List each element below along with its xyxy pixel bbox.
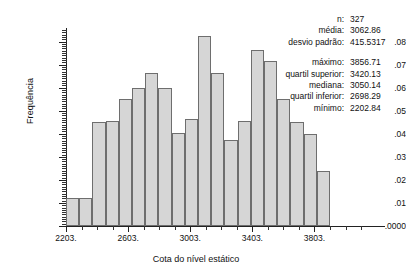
y-axis-title: Frequência	[25, 41, 35, 161]
x-axis-tick	[252, 226, 253, 232]
x-axis-minor-tick	[113, 226, 114, 230]
statistic-value: 327	[350, 14, 402, 25]
x-axis-minor-tick	[97, 226, 98, 230]
statistic-row: desvio padrão:415.5317	[236, 37, 402, 48]
histogram-bar	[238, 121, 251, 226]
statistic-value: 3062.86	[350, 25, 402, 36]
statistic-label: máximo:	[312, 57, 350, 68]
statistic-row: n:327	[236, 14, 402, 25]
histogram-bar	[224, 140, 237, 226]
statistic-label: quartil inferior:	[290, 91, 350, 102]
histogram-bar	[211, 73, 224, 226]
y-axis-tick-label: .04	[352, 129, 406, 139]
histogram-bar	[79, 198, 92, 226]
x-axis-minor-tick	[237, 226, 238, 230]
histogram-bar	[119, 99, 132, 226]
x-axis-minor-tick	[221, 226, 222, 230]
histogram-bar	[66, 198, 79, 226]
x-axis-minor-tick	[159, 226, 160, 230]
x-axis-minor-tick	[82, 226, 83, 230]
statistic-value: 3420.13	[350, 69, 402, 80]
statistic-value: 2202.84	[350, 103, 402, 114]
x-axis-minor-tick	[175, 226, 176, 230]
x-axis-minor-tick	[361, 226, 362, 230]
histogram-bar	[145, 73, 158, 226]
histogram-figure: Frequência Cota do nível estático .0000.…	[0, 0, 406, 280]
statistics-spacer	[236, 48, 402, 57]
x-axis-tick	[128, 226, 129, 232]
histogram-bar	[92, 122, 105, 226]
histogram-bar	[132, 88, 145, 226]
statistic-label: mínimo:	[314, 103, 350, 114]
x-axis-tick-label: 3803.	[304, 233, 325, 243]
x-axis-tick	[314, 226, 315, 232]
x-axis-tick	[66, 226, 67, 232]
x-axis-minor-tick	[283, 226, 284, 230]
x-axis-tick-label: 2203.	[55, 233, 76, 243]
x-axis-minor-tick	[299, 226, 300, 230]
histogram-bar	[198, 36, 211, 226]
x-axis-tick-label: 3403.	[242, 233, 263, 243]
x-axis-title: Cota do nível estático	[62, 254, 330, 264]
statistic-label: mediana:	[309, 80, 350, 91]
statistic-row: mediana:3050.14	[236, 80, 402, 91]
histogram-bar	[304, 134, 317, 226]
x-axis-tick-label: 3003.	[180, 233, 201, 243]
histogram-bar	[172, 133, 185, 226]
statistics-group-summary: n:327média:3062.86desvio padrão:415.5317	[236, 14, 402, 48]
histogram-bar	[185, 119, 198, 226]
statistic-row: quartil inferior:2698.29	[236, 91, 402, 102]
histogram-bar	[158, 88, 171, 226]
y-axis-tick-label: .01	[352, 198, 406, 208]
y-axis-tick-label: .03	[352, 152, 406, 162]
x-axis-line	[66, 226, 385, 227]
statistic-row: quartil superior:3420.13	[236, 69, 402, 80]
y-axis-tick-label: .02	[352, 175, 406, 185]
histogram-bar	[317, 171, 330, 226]
x-axis-minor-tick	[144, 226, 145, 230]
statistic-value: 3856.71	[350, 57, 402, 68]
statistics-panel: n:327média:3062.86desvio padrão:415.5317…	[236, 14, 402, 114]
statistic-label: quartil superior:	[285, 69, 350, 80]
x-axis-tick-label: 2603.	[117, 233, 138, 243]
x-axis-minor-tick	[206, 226, 207, 230]
histogram-bar	[106, 121, 119, 226]
statistic-row: máximo:3856.71	[236, 57, 402, 68]
statistics-group-quantiles: máximo:3856.71quartil superior:3420.13me…	[236, 57, 402, 114]
histogram-bar	[290, 122, 303, 226]
statistic-value: 415.5317	[350, 37, 402, 48]
statistic-row: mínimo:2202.84	[236, 103, 402, 114]
x-axis-minor-tick	[330, 226, 331, 230]
x-axis-minor-tick	[268, 226, 269, 230]
histogram-bar	[277, 99, 290, 226]
statistic-row: média:3062.86	[236, 25, 402, 36]
statistic-label: média:	[318, 25, 350, 36]
x-axis-minor-tick	[346, 226, 347, 230]
statistic-label: desvio padrão:	[288, 37, 350, 48]
statistic-label: n:	[337, 14, 350, 25]
x-axis-tick	[190, 226, 191, 232]
statistic-value: 3050.14	[350, 80, 402, 91]
statistic-value: 2698.29	[350, 91, 402, 102]
